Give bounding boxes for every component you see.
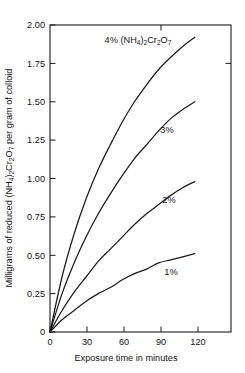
x-axis-title: Exposure time in minutes (74, 353, 178, 363)
y-tick-label: 0 (40, 327, 45, 337)
y-tick-label: 0.25 (27, 289, 45, 299)
chart-figure: 0 0.25 0.50 0.75 1.00 1.25 1.50 1.75 2.0… (0, 0, 245, 373)
y-tick-label: 1.50 (27, 97, 45, 107)
y-axis-title-mid3: O (4, 150, 14, 157)
y-tick-label: 0.75 (27, 212, 45, 222)
line-chart: 0 0.25 0.50 0.75 1.00 1.25 1.50 1.75 2.0… (0, 0, 245, 373)
y-tick-label: 1.75 (27, 59, 45, 69)
y-axis-title-mid2: Cr (4, 161, 14, 171)
y-axis-title-suffix: per gram of colloid (4, 69, 14, 147)
y-tick-labels: 0 0.25 0.50 0.75 1.00 1.25 1.50 1.75 2.0… (27, 20, 45, 337)
x-tick-label: 0 (47, 337, 52, 347)
x-tick-label: 30 (82, 337, 92, 347)
series-label-1-pct: 1% (164, 267, 177, 277)
y-tick-label: 1.25 (27, 135, 45, 145)
y-axis-title-prefix: Milligrams of reduced (NH (4, 181, 14, 287)
y-tick-label: 0.50 (27, 251, 45, 261)
series-label-2-pct: 2% (162, 195, 175, 205)
x-tick-label: 60 (119, 337, 129, 347)
y-axis-title: Milligrams of reduced (NH4)2Cr2O7 per gr… (4, 69, 15, 288)
series-label-3-pct: 3% (160, 125, 173, 135)
plot-background (50, 25, 231, 332)
x-tick-label: 120 (190, 337, 205, 347)
x-tick-label: 90 (156, 337, 166, 347)
y-tick-label: 1.00 (27, 174, 45, 184)
x-tick-labels: 0 30 60 90 120 (47, 337, 205, 347)
y-tick-label: 2.00 (27, 20, 45, 30)
